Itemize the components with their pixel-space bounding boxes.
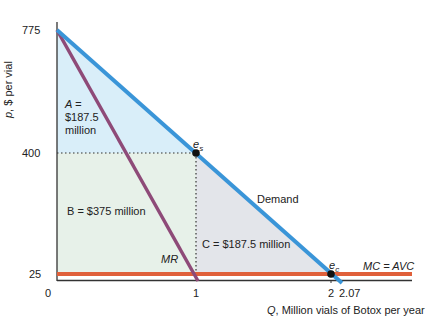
es-sub: s bbox=[199, 144, 203, 153]
area-a-unit: million bbox=[65, 124, 99, 137]
x-axis-var: Q bbox=[267, 304, 276, 316]
y-tick-25: 25 bbox=[29, 268, 41, 281]
y-axis-unit: , $ per vial bbox=[2, 61, 14, 112]
diagram-canvas bbox=[0, 0, 441, 330]
area-a-value: $187.5 bbox=[65, 111, 99, 124]
demand-label: Demand bbox=[257, 193, 299, 206]
x-axis-unit: , Million vials of Botox per year bbox=[276, 304, 425, 316]
x-tick-2-07: 2.07 bbox=[339, 287, 360, 300]
area-a-label: A = $187.5 million bbox=[65, 98, 99, 137]
ec-sub: c bbox=[335, 265, 339, 274]
area-b-label: B = $375 million bbox=[67, 205, 146, 218]
mc-avc-label: MC = AVC bbox=[363, 260, 414, 273]
y-axis-var: p bbox=[2, 112, 14, 118]
area-c-label: C = $187.5 million bbox=[202, 238, 290, 251]
y-axis-label: p, $ per vial bbox=[2, 30, 16, 120]
monopoly-diagram: p, $ per vial 775 400 25 0 1 2 2.07 Q, M… bbox=[0, 0, 441, 330]
y-tick-0: 0 bbox=[45, 287, 51, 300]
x-tick-1: 1 bbox=[193, 287, 199, 300]
y-tick-400: 400 bbox=[22, 147, 40, 160]
y-tick-775: 775 bbox=[22, 24, 40, 37]
mr-label: MR bbox=[161, 253, 178, 266]
point-ec-label: ec bbox=[329, 259, 339, 276]
point-es-label: es bbox=[193, 138, 203, 155]
area-a-title: A = bbox=[65, 98, 81, 110]
x-tick-2: 2 bbox=[328, 287, 334, 300]
x-axis-label: Q, Million vials of Botox per year bbox=[267, 304, 425, 317]
